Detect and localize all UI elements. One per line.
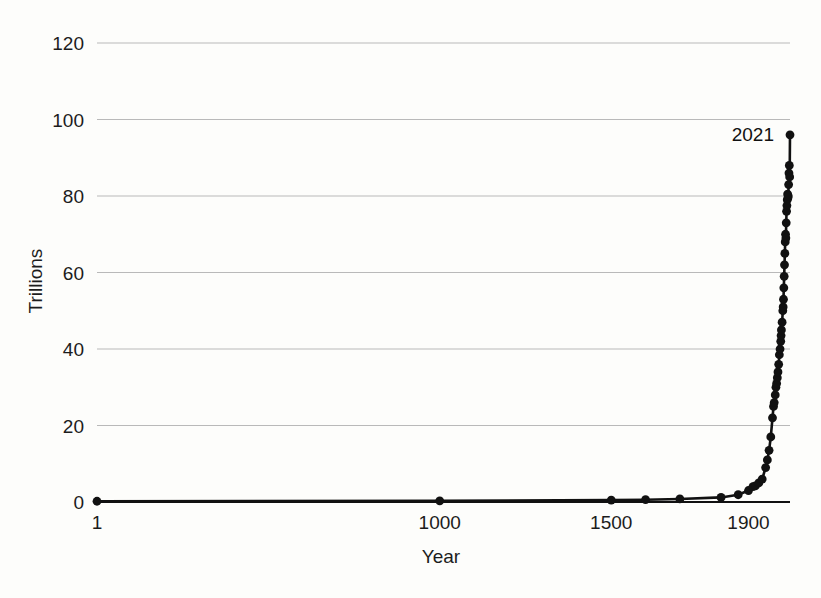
data-point-marker <box>641 495 650 504</box>
data-point-marker <box>779 283 788 292</box>
data-point-marker <box>768 413 777 422</box>
x-tick-label: 1000 <box>419 512 461 533</box>
x-axis-title: Year <box>422 546 461 567</box>
data-point-marker <box>779 295 788 304</box>
data-point-marker <box>770 398 779 407</box>
gridlines <box>97 43 790 426</box>
data-point-marker <box>780 272 789 281</box>
x-axis-tick-labels: 1100015001900 <box>92 512 770 533</box>
y-tick-label: 100 <box>52 110 84 131</box>
series-markers <box>93 130 795 505</box>
data-point-marker <box>785 172 794 181</box>
data-point-marker <box>781 234 790 243</box>
data-point-marker <box>93 497 102 506</box>
data-point-marker <box>607 496 616 505</box>
data-point-marker <box>785 161 794 170</box>
y-tick-label: 60 <box>63 263 84 284</box>
data-point-marker <box>776 345 785 354</box>
y-tick-label: 0 <box>73 492 84 513</box>
data-point-marker <box>763 456 772 465</box>
world-gdp-line-chart: 020406080100120 1100015001900 2021 Trill… <box>0 0 821 598</box>
series-line-world-gdp <box>97 135 790 501</box>
chart-annotations: 2021 <box>732 124 774 145</box>
data-point-marker <box>784 180 793 189</box>
data-point-marker <box>771 391 780 400</box>
data-point-marker <box>675 495 684 504</box>
data-point-marker <box>779 303 788 312</box>
data-point-marker <box>774 360 783 369</box>
chart-page: 020406080100120 1100015001900 2021 Trill… <box>0 0 821 598</box>
y-axis-title: Trillions <box>25 249 46 314</box>
y-tick-label: 20 <box>63 416 84 437</box>
y-tick-label: 80 <box>63 186 84 207</box>
y-axis-tick-labels: 020406080100120 <box>52 33 84 513</box>
data-point-marker <box>780 249 789 258</box>
data-point-marker <box>717 493 726 502</box>
data-point-marker <box>786 130 795 139</box>
data-point-marker <box>774 368 783 377</box>
data-point-marker <box>758 475 767 484</box>
data-point-marker <box>780 260 789 269</box>
data-point-marker <box>765 446 774 455</box>
y-tick-label: 120 <box>52 33 84 54</box>
y-tick-label: 40 <box>63 339 84 360</box>
data-point-marker <box>777 325 786 334</box>
data-point-marker <box>766 433 775 442</box>
data-point-marker <box>734 490 743 499</box>
data-point-marker <box>784 192 793 201</box>
data-point-marker <box>761 463 770 472</box>
x-tick-label: 1 <box>92 512 103 533</box>
data-point-marker <box>435 496 444 505</box>
annotation-label-2021: 2021 <box>732 124 774 145</box>
data-point-marker <box>778 318 787 327</box>
x-tick-label: 1900 <box>727 512 769 533</box>
data-point-marker <box>782 218 791 227</box>
x-tick-label: 1500 <box>590 512 632 533</box>
